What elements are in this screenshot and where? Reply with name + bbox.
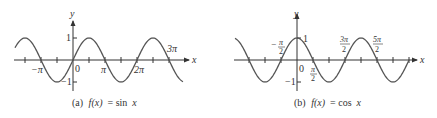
y-tick-label-neg1: −1 — [285, 76, 296, 87]
svg-text:π: π — [311, 65, 316, 74]
x-tick-label-2pi: 2π — [134, 64, 145, 75]
origin-label: 0 — [299, 63, 304, 74]
x-tick-label-3pi-half: 3π 2 — [339, 35, 350, 54]
panel-b-cosine: y x 1 −1 0 − π 2 π 2 3π 2 5π 2 — [234, 8, 425, 109]
svg-text:2: 2 — [342, 45, 346, 54]
svg-text:2: 2 — [279, 47, 283, 56]
svg-text:5π: 5π — [373, 35, 382, 44]
x-axis-label: x — [419, 54, 425, 65]
svg-text:π: π — [279, 38, 284, 47]
caption-b: (b) f(x) = cos x — [294, 97, 362, 109]
caption-a: (a) f(x) = sin x — [72, 97, 137, 109]
y-tick-label-1: 1 — [66, 32, 71, 43]
x-tick-label-5pi-half: 5π 2 — [373, 35, 383, 54]
panel-a-sine: y x 1 −1 0 −π π 2π 3π (a) f(x) = sin x — [14, 8, 197, 109]
x-axis-label: x — [191, 54, 197, 65]
y-axis-label: y — [69, 8, 75, 19]
svg-text:2: 2 — [375, 45, 379, 54]
x-tick-label-3pi: 3π — [166, 43, 178, 54]
svg-text:−: − — [271, 39, 276, 49]
origin-label: 0 — [75, 63, 80, 74]
svg-text:2: 2 — [311, 74, 315, 83]
svg-text:3π: 3π — [339, 35, 349, 44]
figure: y x 1 −1 0 −π π 2π 3π (a) f(x) = sin x — [0, 0, 437, 118]
x-tick-label-pi: π — [101, 64, 107, 75]
y-tick-label-1: 1 — [303, 33, 308, 44]
y-axis-label: y — [293, 8, 299, 19]
y-tick-label-neg1: −1 — [61, 76, 72, 87]
x-tick-label-neg-pi-half: − π 2 — [271, 38, 285, 56]
x-tick-label-neg-pi: −π — [31, 64, 44, 75]
